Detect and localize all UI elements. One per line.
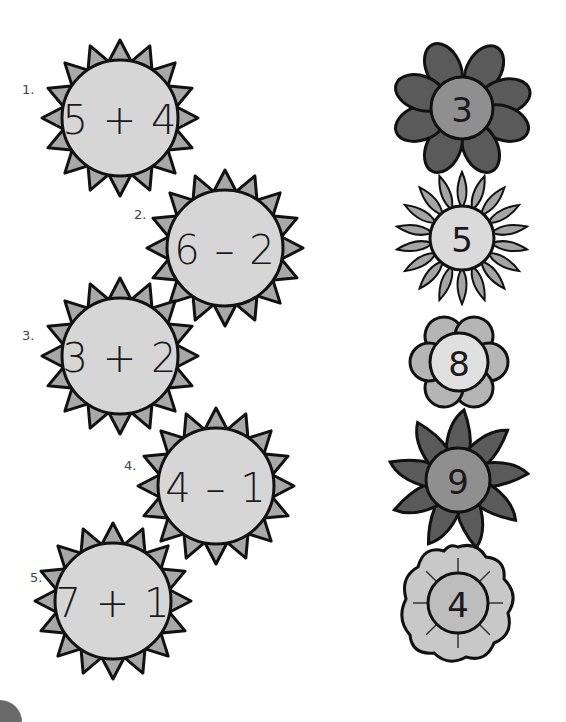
- answer-3: 3: [451, 90, 473, 130]
- expression-5: 7 + 1: [56, 580, 171, 626]
- problem-number-5: 5.: [30, 570, 42, 585]
- problem-number-4: 4.: [124, 458, 136, 473]
- answer-9: 9: [447, 462, 469, 502]
- problem-number-2: 2.: [134, 207, 146, 222]
- answer-8: 8: [448, 344, 470, 384]
- answer-5: 5: [451, 220, 473, 260]
- expression-1: 5 + 4: [63, 97, 178, 143]
- problem-number-3: 3.: [22, 328, 34, 343]
- expression-3: 3 + 2: [63, 335, 178, 381]
- answer-4: 4: [447, 585, 469, 625]
- expression-4: 4 – 1: [165, 465, 266, 511]
- expression-2: 6 – 2: [174, 227, 275, 273]
- problem-number-1: 1.: [22, 82, 34, 97]
